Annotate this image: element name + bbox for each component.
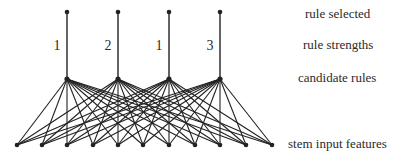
rule-strength-value: 1 (54, 38, 61, 53)
input-feature-node (244, 143, 249, 148)
strength-labels: 1213 (54, 38, 214, 53)
input-feature-node (167, 143, 172, 148)
nodes (15, 10, 275, 148)
connections (17, 12, 272, 145)
label-candidate-rules: candidate rules (298, 70, 376, 86)
input-feature-node (218, 143, 223, 148)
selected-node (167, 10, 172, 15)
candidate-rule-node (217, 76, 222, 81)
feature-edge (17, 79, 67, 145)
input-feature-node (15, 143, 20, 148)
input-feature-node (193, 143, 198, 148)
candidate-rule-node (64, 76, 69, 81)
candidate-rule-node (166, 76, 171, 81)
feature-edge (220, 79, 246, 145)
feature-edge (42, 79, 169, 145)
label-stem-input-features: stem input features (288, 136, 387, 152)
rule-strength-value: 2 (105, 38, 112, 53)
feature-edge (195, 79, 220, 145)
input-feature-node (270, 143, 275, 148)
candidate-rule-node (115, 76, 120, 81)
input-feature-node (91, 143, 96, 148)
selected-node (116, 10, 121, 15)
label-rule-selected: rule selected (305, 6, 370, 22)
rule-strength-value: 3 (207, 38, 214, 53)
input-feature-node (65, 143, 70, 148)
input-feature-node (141, 143, 146, 148)
input-feature-node (116, 143, 121, 148)
selected-node (65, 10, 70, 15)
rule-strength-value: 1 (156, 38, 163, 53)
label-rule-strengths: rule strengths (303, 37, 373, 53)
input-feature-node (40, 143, 45, 148)
selected-node (218, 10, 223, 15)
feature-edge (93, 79, 220, 145)
